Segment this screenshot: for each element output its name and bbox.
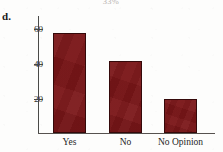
x-tick-label-yes: Yes bbox=[44, 136, 95, 149]
y-tick-mark-40 bbox=[34, 64, 43, 65]
bar-yes bbox=[53, 33, 86, 133]
y-tick-group-60: 60 bbox=[0, 29, 43, 38]
y-tick-mark-20 bbox=[34, 99, 43, 100]
bar-no-opinion bbox=[164, 99, 197, 133]
y-tick-mark-60 bbox=[34, 29, 43, 30]
bar-chart-figure: 33% d. 60 40 20 Yes No No Opinion bbox=[0, 0, 223, 152]
top-clipped-caption: 33% bbox=[89, 0, 133, 6]
x-axis-line bbox=[38, 133, 215, 134]
bar-no bbox=[109, 61, 142, 133]
panel-letter: d. bbox=[2, 10, 11, 22]
x-tick-label-no-opinion: No Opinion bbox=[150, 136, 211, 149]
y-tick-group-40: 40 bbox=[0, 64, 43, 73]
y-tick-group-20: 20 bbox=[0, 99, 43, 108]
x-tick-label-no: No bbox=[100, 136, 151, 149]
